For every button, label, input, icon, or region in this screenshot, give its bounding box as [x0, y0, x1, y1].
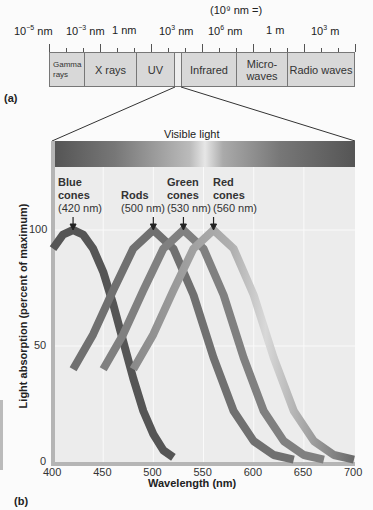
- label-green-cones: Greencones(530 nm): [167, 176, 211, 215]
- visible-spectrum-bar: [55, 141, 355, 167]
- absorption-chart: [0, 0, 373, 510]
- y-tick-100: 100: [29, 223, 47, 235]
- y-tick-50: 50: [34, 339, 46, 351]
- x-axis-label: Wavelength (nm): [148, 477, 236, 489]
- label-blue-cones: Bluecones(420 nm): [58, 176, 102, 215]
- x-tick-650: 650: [294, 466, 312, 478]
- y-axis-label: Light absorption (percent of maximum): [17, 191, 29, 421]
- label-rods: Rods(500 nm): [121, 189, 165, 215]
- page-edge: [0, 400, 3, 470]
- x-tick-400: 400: [43, 466, 61, 478]
- x-tick-600: 600: [244, 466, 262, 478]
- label-red-cones: Redcones(560 nm): [213, 176, 257, 215]
- panel-b-label: (b): [14, 495, 28, 507]
- visible-light-label: Visible light: [164, 128, 219, 140]
- x-tick-700: 700: [344, 466, 362, 478]
- x-tick-450: 450: [93, 466, 111, 478]
